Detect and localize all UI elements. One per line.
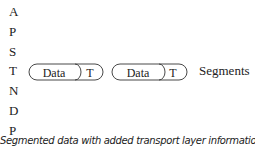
segment-1: Data T	[29, 64, 103, 80]
segment-2-data-label: Data	[127, 66, 150, 80]
segment-1-header-label: T	[86, 66, 94, 80]
segment-1-divider	[75, 64, 81, 80]
segment-2: Data T	[112, 64, 187, 80]
segment-1-data-label: Data	[43, 66, 66, 80]
figure-caption: Segmented data with added transport laye…	[0, 135, 255, 146]
segment-2-divider	[159, 64, 165, 80]
segment-2-header-label: T	[169, 66, 177, 80]
segments-label: Segments	[199, 64, 250, 78]
